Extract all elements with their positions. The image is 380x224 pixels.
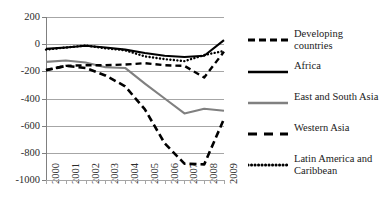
gridline	[46, 180, 224, 181]
series-lines	[46, 17, 224, 180]
legend-label: Africa	[294, 60, 380, 72]
x-axis-tick	[46, 180, 47, 184]
legend-label: East and South Asia	[294, 91, 380, 103]
chart-legend: Developing countriesAfricaEast and South…	[248, 28, 380, 185]
y-axis-tick-label: -200	[0, 66, 40, 76]
long-dashed-swatch	[248, 125, 288, 135]
solid-gray-swatch	[248, 94, 288, 104]
y-axis-tick-label: -1000	[0, 175, 40, 185]
plot-area	[46, 17, 224, 180]
x-axis-tick	[224, 180, 225, 184]
y-axis-tick-label: -800	[0, 148, 40, 158]
x-axis-tick	[165, 180, 166, 184]
heavy-dashed-swatch	[248, 31, 288, 41]
series-line	[46, 40, 224, 57]
dotted-swatch	[248, 156, 288, 166]
y-axis-tick-label: 200	[0, 12, 40, 22]
legend-label: Developing countries	[294, 28, 380, 51]
x-axis-tick	[86, 180, 87, 184]
solid-black-swatch	[248, 63, 288, 73]
x-axis-tick	[184, 180, 185, 184]
y-axis-tick-label: -400	[0, 94, 40, 104]
series-line	[46, 60, 224, 113]
legend-item[interactable]: East and South Asia	[248, 91, 380, 113]
legend-label: Latin America and Caribbean	[294, 153, 380, 176]
legend-label: Western Asia	[294, 122, 380, 134]
cropped-chart-title	[86, 0, 236, 2]
y-axis-tick-label: 0	[0, 39, 40, 49]
legend-item[interactable]: Latin America and Caribbean	[248, 153, 380, 176]
series-line	[46, 66, 224, 164]
x-axis-tick	[105, 180, 106, 184]
chart-figure: 2000-200-400-600-800-1000 20002001200220…	[0, 0, 380, 224]
x-axis-tick-label: 2009	[228, 150, 239, 184]
x-axis-tick	[204, 180, 205, 184]
x-axis-tick	[66, 180, 67, 184]
legend-item[interactable]: Western Asia	[248, 122, 380, 144]
x-axis-tick	[145, 180, 146, 184]
y-axis-tick-label: -600	[0, 121, 40, 131]
x-axis-tick	[125, 180, 126, 184]
legend-item[interactable]: Africa	[248, 60, 380, 82]
legend-item[interactable]: Developing countries	[248, 28, 380, 51]
